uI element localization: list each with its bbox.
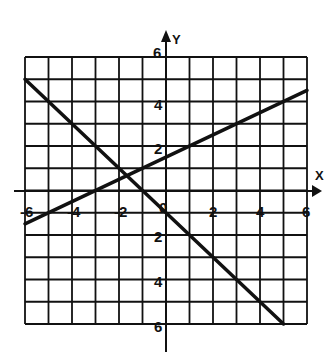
x-tick-label: 2 bbox=[209, 203, 217, 220]
y-axis-label: Y bbox=[172, 32, 181, 47]
coordinate-plane: X Y 6 4 2 2 4 6 -6 -4 -2 0 2 4 6 bbox=[0, 0, 335, 360]
x-tick-label: -6 bbox=[20, 203, 33, 220]
axes: X Y bbox=[14, 30, 324, 352]
y-tick-label: 2 bbox=[154, 140, 162, 157]
y-tick-label: 4 bbox=[154, 96, 163, 113]
x-tick-label: 4 bbox=[256, 203, 265, 220]
x-axis-label: X bbox=[315, 168, 324, 183]
y-tick-label: 6 bbox=[154, 318, 162, 335]
y-tick-label: 2 bbox=[154, 228, 162, 245]
y-axis-arrow-icon bbox=[161, 30, 171, 42]
x-tick-label: 6 bbox=[302, 203, 310, 220]
x-tick-label: -4 bbox=[67, 203, 81, 220]
y-tick-label: 6 bbox=[153, 44, 161, 61]
x-axis-arrow-icon bbox=[312, 185, 322, 197]
y-tick-label: 4 bbox=[154, 273, 163, 290]
x-tick-label: -2 bbox=[114, 203, 127, 220]
